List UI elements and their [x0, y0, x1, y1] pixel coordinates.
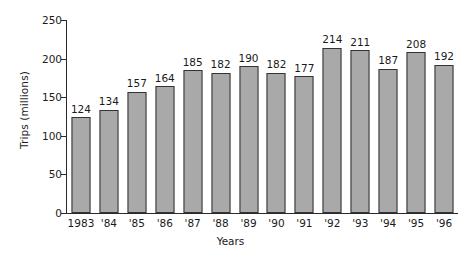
bar-group: 182: [207, 20, 235, 213]
y-axis-tick-label: 100: [28, 131, 62, 142]
bar: [323, 48, 342, 213]
bar-group: 190: [235, 20, 263, 213]
bar: [407, 52, 426, 213]
x-axis-tick-label: 1983: [68, 218, 95, 229]
x-axis-tick-label: '96: [436, 218, 452, 229]
bar: [155, 86, 174, 213]
bar-value-label: 134: [99, 96, 119, 107]
bar-value-label: 208: [406, 39, 426, 50]
x-axis-tick-labels: 1983'84'85'86'87'88'89'90'91'92'93'94'95…: [67, 218, 458, 234]
bar-group: 211: [346, 20, 374, 213]
bar: [267, 73, 286, 214]
bar-group: 208: [402, 20, 430, 213]
bar: [183, 70, 202, 213]
y-axis-tick-label: 0: [28, 208, 62, 219]
bar: [71, 117, 90, 213]
bar-value-label: 124: [71, 104, 91, 115]
bar-group: 157: [123, 20, 151, 213]
bar-group: 187: [374, 20, 402, 213]
x-axis-tick-label: '89: [240, 218, 256, 229]
bar-group: 192: [430, 20, 458, 213]
bar-value-label: 182: [266, 59, 286, 70]
bar-value-label: 164: [155, 73, 175, 84]
bar-value-label: 187: [378, 55, 398, 66]
x-axis-tick-label: '84: [101, 218, 117, 229]
bar: [239, 66, 258, 213]
bar: [99, 110, 118, 213]
y-axis-tick-label: 250: [28, 15, 62, 26]
bar-value-label: 214: [322, 34, 342, 45]
x-axis-title: Years: [0, 235, 461, 247]
x-axis-tick-label: '87: [185, 218, 201, 229]
bar: [379, 69, 398, 213]
bar-group: 182: [263, 20, 291, 213]
x-axis-tick-label: '93: [352, 218, 368, 229]
bar-group: 134: [95, 20, 123, 213]
bar-value-label: 182: [211, 59, 231, 70]
bar-chart: Trips (millions) 050100150200250 1241341…: [0, 0, 469, 254]
y-axis-tick-label: 150: [28, 92, 62, 103]
bar: [127, 92, 146, 213]
y-axis-tick-labels: 050100150200250: [26, 0, 62, 254]
x-axis-tick-label: '90: [268, 218, 284, 229]
x-axis-tick-label: '85: [129, 218, 145, 229]
plot-area: 1241341571641851821901821772142111872081…: [67, 20, 458, 213]
bar-group: 177: [290, 20, 318, 213]
bar: [435, 65, 454, 213]
x-axis-tick-label: '91: [296, 218, 312, 229]
bar-value-label: 190: [238, 53, 258, 64]
bar-value-label: 211: [350, 37, 370, 48]
bar: [295, 76, 314, 213]
x-axis-line: [66, 213, 458, 214]
bar: [351, 50, 370, 213]
bar-value-label: 192: [434, 51, 454, 62]
x-axis-tick-label: '88: [212, 218, 228, 229]
bar-group: 164: [151, 20, 179, 213]
bar-group: 214: [318, 20, 346, 213]
bar: [211, 73, 230, 214]
x-axis-tick-label: '86: [157, 218, 173, 229]
bar-group: 185: [179, 20, 207, 213]
x-axis-tick-label: '94: [380, 218, 396, 229]
y-axis-tick-label: 50: [28, 169, 62, 180]
y-axis-tick-label: 200: [28, 53, 62, 64]
bar-value-label: 177: [294, 63, 314, 74]
x-axis-tick-label: '95: [408, 218, 424, 229]
x-axis-tick-label: '92: [324, 218, 340, 229]
bar-value-label: 185: [183, 57, 203, 68]
bar-group: 124: [67, 20, 95, 213]
bar-value-label: 157: [127, 78, 147, 89]
